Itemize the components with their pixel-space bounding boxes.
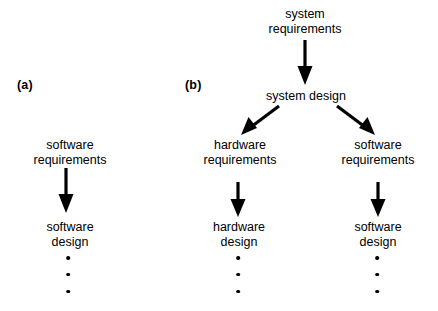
dot <box>236 273 240 277</box>
dot <box>236 256 240 260</box>
arrow-hw-req-to-hw-design-b <box>222 180 254 220</box>
dot <box>66 290 70 294</box>
node-line: hardware <box>204 138 277 153</box>
node-hardware-design-b: hardware design <box>213 220 265 249</box>
ellipsis-dots-b-left <box>236 256 240 293</box>
node-system-requirements-b: system requirements <box>269 7 342 36</box>
node-line: hardware <box>213 220 265 235</box>
panel-label-a: (a) <box>17 78 33 92</box>
arrow-sw-req-to-sw-design-b <box>362 180 394 220</box>
node-line: design <box>213 235 265 250</box>
node-software-requirements-a: software requirements <box>34 138 107 167</box>
node-system-design-b: system design <box>266 89 346 104</box>
dot <box>375 273 379 277</box>
node-software-requirements-b: software requirements <box>342 138 415 167</box>
node-line: requirements <box>269 22 342 37</box>
dot <box>66 256 70 260</box>
node-software-design-b: software design <box>354 220 401 249</box>
node-line: requirements <box>204 153 277 168</box>
node-line: software <box>354 220 401 235</box>
arrow-sys-design-to-hardware-requirements-b <box>238 104 284 138</box>
figure-canvas: (a) software requirements software desig… <box>0 0 438 311</box>
node-line: software <box>34 138 107 153</box>
node-line: system <box>269 7 342 22</box>
arrow-sys-req-to-sys-design-b <box>289 38 321 88</box>
node-software-design-a: software design <box>46 220 93 249</box>
ellipsis-dots-b-right <box>375 256 379 293</box>
node-line: software <box>46 220 93 235</box>
ellipsis-dots-a <box>66 256 70 293</box>
dot <box>66 273 70 277</box>
node-line: requirements <box>342 153 415 168</box>
node-line: system design <box>266 89 346 104</box>
node-line: design <box>46 235 93 250</box>
arrow-sys-design-to-software-requirements-b <box>332 104 378 138</box>
node-hardware-requirements-b: hardware requirements <box>204 138 277 167</box>
panel-label-b: (b) <box>185 78 202 92</box>
node-line: design <box>354 235 401 250</box>
dot <box>236 290 240 294</box>
node-line: requirements <box>34 153 107 168</box>
node-line: software <box>342 138 415 153</box>
dot <box>375 290 379 294</box>
arrow-sw-req-to-sw-design-a <box>50 166 82 216</box>
dot <box>375 256 379 260</box>
